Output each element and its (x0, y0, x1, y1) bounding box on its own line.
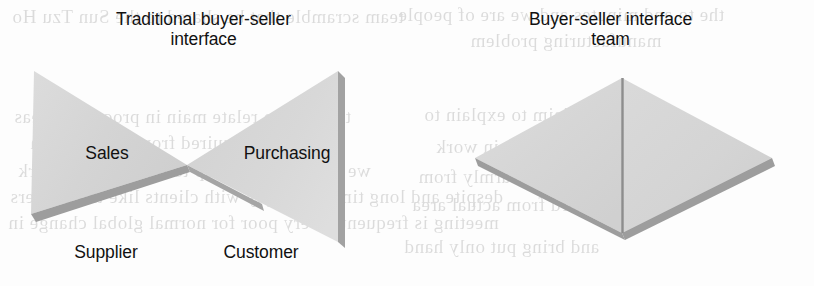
diagram-interface-team: Buyer-seller interface team (407, 0, 814, 286)
axis-label-customer-traditional: Customer (196, 243, 326, 262)
region-label-sales: Sales (52, 144, 162, 163)
diamond-half-sales-team (475, 78, 622, 233)
axis-label-supplier-traditional: Supplier (46, 243, 166, 262)
diamond-half-customer-team (622, 78, 772, 233)
figure-container: team scramble that be shared to the Sun … (0, 0, 814, 286)
diagram-traditional-interface: Traditional buyer-seller interface (0, 0, 407, 286)
region-label-purchasing: Purchasing (212, 144, 362, 163)
split-diamond-graphic (407, 0, 814, 286)
